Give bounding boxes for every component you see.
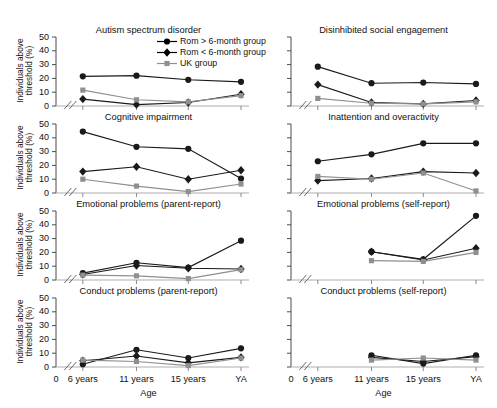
series-line	[83, 167, 241, 179]
data-point-marker	[314, 80, 321, 88]
series-line	[83, 179, 241, 191]
panel-title: Disinhibited social engagement	[291, 25, 476, 35]
series-line	[83, 90, 241, 102]
x-axis-tick-label: 6 years	[56, 375, 110, 384]
legend-item-label: UK group	[180, 58, 217, 69]
panel-title: Emotional problems (self-report)	[291, 199, 476, 209]
data-point-marker	[369, 101, 374, 106]
data-point-marker	[420, 79, 426, 85]
data-point-marker	[368, 80, 374, 86]
data-point-marker	[472, 169, 479, 177]
y-axis-title: Individuals above threshold (%)	[16, 120, 35, 195]
series-line	[371, 216, 476, 259]
data-point-marker	[79, 95, 86, 103]
x-axis-tick-label: YA	[449, 375, 497, 384]
data-point-marker	[421, 355, 426, 360]
data-point-marker	[420, 140, 426, 146]
data-point-marker	[133, 352, 140, 360]
multi-panel-line-chart-figure: Autism spectrum disorder01020304050Indiv…	[0, 0, 497, 408]
panel-title: Conduct problems (parent-report)	[56, 286, 241, 296]
series-line	[83, 76, 241, 82]
data-point-marker	[186, 99, 191, 104]
panel-title: Autism spectrum disorder	[56, 25, 241, 35]
x-axis-title: Age	[291, 389, 476, 398]
data-point-marker	[134, 97, 139, 102]
x-axis-tick-label: 11 years	[344, 375, 398, 384]
panel-plot-area	[291, 37, 497, 120]
data-point-marker	[421, 259, 426, 264]
panel-plot-area	[56, 211, 267, 294]
panel-plot-area	[56, 124, 267, 207]
data-point-marker	[368, 151, 374, 157]
data-point-marker	[80, 128, 86, 134]
panel-title: Conduct problems (self-report)	[291, 286, 476, 296]
y-axis-title: Individuals above threshold (%)	[16, 33, 35, 108]
data-point-marker	[473, 213, 479, 219]
legend-square-marker-icon	[157, 58, 177, 69]
legend-diamond-marker-icon	[157, 47, 177, 58]
legend-item-label: Rom > 6-month group	[180, 36, 266, 47]
data-point-marker	[369, 258, 374, 263]
series-line	[83, 132, 241, 179]
data-point-marker	[185, 77, 191, 83]
legend-item-label: Rom < 6-month group	[180, 47, 266, 58]
legend-circle-marker-icon	[157, 36, 177, 47]
data-point-marker	[186, 276, 191, 281]
series-line	[318, 98, 476, 104]
data-point-marker	[185, 264, 192, 272]
y-axis-title: Individuals above threshold (%)	[16, 207, 35, 282]
panel-plot-area	[56, 298, 267, 381]
data-point-marker	[368, 248, 375, 256]
data-point-marker	[473, 358, 478, 363]
x-axis-tick-label: 15 years	[396, 375, 450, 384]
data-point-marker	[133, 73, 139, 79]
data-point-marker	[369, 358, 374, 363]
panel-plot-area	[291, 211, 497, 294]
data-point-marker	[315, 174, 320, 179]
data-point-marker	[315, 64, 321, 70]
data-point-marker	[185, 146, 191, 152]
panel-title: Inattention and overactivity	[291, 112, 476, 122]
data-point-marker	[421, 101, 426, 106]
series-line	[318, 173, 476, 191]
y-axis-title: Individuals above threshold (%)	[16, 294, 35, 369]
data-point-marker	[79, 167, 86, 175]
data-point-marker	[134, 184, 139, 189]
x-axis-tick-label: 11 years	[109, 375, 163, 384]
data-point-marker	[134, 359, 139, 364]
panel-title: Emotional problems (parent-report)	[56, 199, 241, 209]
data-point-marker	[369, 177, 374, 182]
data-point-marker	[80, 177, 85, 182]
data-point-marker	[315, 96, 320, 101]
data-point-marker	[80, 73, 86, 79]
data-point-marker	[473, 81, 479, 87]
data-point-marker	[134, 273, 139, 278]
series-line	[83, 94, 241, 104]
data-point-marker	[186, 363, 191, 368]
data-point-marker	[186, 189, 191, 194]
x-axis-tick-label: 6 years	[291, 375, 345, 384]
data-point-marker	[80, 358, 85, 363]
data-point-marker	[473, 188, 478, 193]
data-point-marker	[185, 175, 192, 183]
data-point-marker	[473, 99, 478, 104]
x-axis-title: Age	[56, 389, 241, 398]
data-point-marker	[133, 144, 139, 150]
series-line	[318, 67, 476, 84]
data-point-marker	[80, 273, 85, 278]
panel-plot-area	[291, 124, 497, 207]
series-line	[318, 143, 476, 161]
data-point-marker	[80, 88, 85, 93]
x-axis-tick-label: 15 years	[161, 375, 215, 384]
panel-title: Cognitive impairment	[56, 112, 241, 122]
data-point-marker	[473, 140, 479, 146]
data-point-marker	[133, 163, 140, 171]
data-point-marker	[421, 170, 426, 175]
panel-plot-area	[291, 298, 497, 381]
data-point-marker	[315, 158, 321, 164]
data-point-marker	[473, 250, 478, 255]
